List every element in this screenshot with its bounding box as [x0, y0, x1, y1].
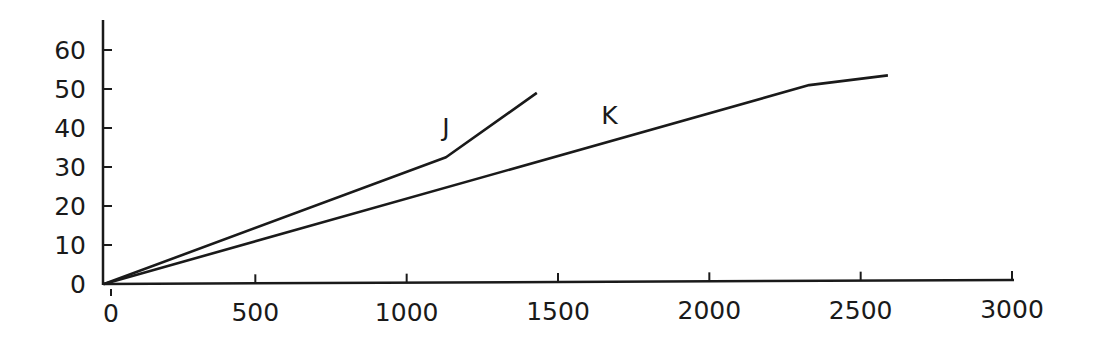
x-tick-label: 2500 — [829, 296, 893, 325]
series-label-k: K — [601, 101, 618, 130]
series-lines — [104, 75, 888, 284]
y-tick-label: 50 — [54, 75, 86, 104]
series-line-k — [104, 75, 888, 284]
y-tick-label: 10 — [54, 231, 86, 260]
x-tick-label: 1000 — [375, 298, 439, 327]
y-tick-label: 60 — [54, 36, 86, 65]
series-line-j — [104, 93, 537, 284]
y-tick-label: 30 — [54, 153, 86, 182]
x-tick-label: 3000 — [980, 295, 1044, 324]
line-chart: 0102030405060 050010001500200025003000 J… — [0, 0, 1110, 347]
series-labels: JK — [440, 101, 618, 142]
x-tick-label: 1500 — [526, 297, 590, 326]
x-tick-label: 500 — [231, 298, 279, 327]
series-label-j: J — [440, 113, 449, 142]
y-tick-label: 40 — [54, 114, 86, 143]
y-tick-label: 20 — [54, 192, 86, 221]
x-tick-label: 0 — [103, 299, 119, 328]
x-tick-label: 2000 — [678, 296, 742, 325]
y-tick-label: 0 — [70, 270, 86, 299]
